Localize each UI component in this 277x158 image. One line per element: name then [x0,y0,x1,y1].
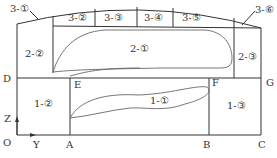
point-O: O [3,137,11,148]
point-Z: Z [4,113,11,124]
label-3-4: 3-④ [144,12,163,23]
zone-1-1-outline [70,87,209,118]
point-G: G [266,77,274,88]
label-3-2: 3-② [68,12,87,23]
label-2-3: 2-③ [238,51,257,62]
point-A: A [65,139,74,150]
zone-1-top-curve [70,68,140,76]
point-D: D [3,73,11,84]
z-axis-arrow-icon [15,116,19,122]
label-3-1: 3-① [10,3,29,14]
callout-3-1 [30,11,38,19]
point-C: C [258,139,266,150]
label-2-2: 2-② [25,48,44,59]
y-axis-arrow-icon [30,133,36,137]
roof-strip-bottom [53,26,261,28]
callout-3-6 [242,11,255,25]
roof-arch [17,10,261,28]
point-B: B [203,139,210,150]
point-E: E [74,79,81,90]
point-Y: Y [32,139,40,150]
label-1-2: 1-② [34,98,53,109]
zoning-diagram: 3-① 3-② 3-③ 3-④ 3-⑤ 3-⑥ 2-② 2-① 2-③ 1-② … [0,0,277,158]
label-1-3: 1-③ [227,100,246,111]
point-F: F [212,77,219,88]
label-1-1: 1-① [150,95,169,106]
label-2-1: 2-① [130,43,149,54]
label-3-6: 3-⑥ [255,4,274,15]
label-3-3: 3-③ [104,12,123,23]
label-3-5: 3-⑤ [182,12,201,23]
